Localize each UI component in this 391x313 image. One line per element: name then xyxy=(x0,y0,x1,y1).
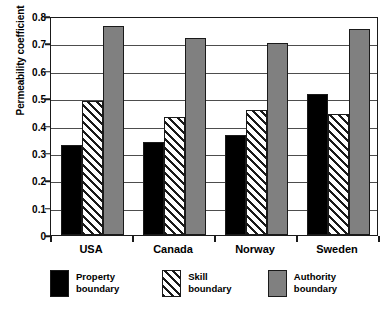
x-tick-mark xyxy=(50,236,52,242)
legend-label: Skillboundary xyxy=(188,270,231,295)
legend-item[interactable]: Propertyboundary xyxy=(50,270,148,297)
bar-group xyxy=(51,18,133,235)
y-tick-label: 0.7 xyxy=(2,39,46,50)
x-axis-label-canada: Canada xyxy=(153,243,193,255)
y-tick-label: 0.8 xyxy=(2,12,46,23)
legend-label: Propertyboundary xyxy=(76,270,119,295)
legend-swatch xyxy=(162,270,181,297)
bar[interactable] xyxy=(82,101,103,235)
bar[interactable] xyxy=(328,114,349,235)
bar-group xyxy=(297,18,379,235)
bar[interactable] xyxy=(307,94,328,235)
bar[interactable] xyxy=(103,26,124,235)
legend-label-line2: boundary xyxy=(188,283,231,295)
legend-swatch xyxy=(268,270,287,297)
bar-group xyxy=(133,18,215,235)
y-tick-label: 0.1 xyxy=(2,203,46,214)
bar[interactable] xyxy=(349,29,370,235)
legend: PropertyboundarySkillboundaryAuthoritybo… xyxy=(50,270,380,297)
bar[interactable] xyxy=(225,135,246,235)
x-axis-label-sweden: Sweden xyxy=(316,243,358,255)
bar[interactable] xyxy=(61,145,82,235)
y-tick-label: 0.3 xyxy=(2,148,46,159)
bar-group xyxy=(215,18,297,235)
legend-swatch xyxy=(50,270,69,297)
x-tick-mark xyxy=(132,236,134,242)
legend-item[interactable]: Authorityboundary xyxy=(268,270,366,297)
y-tick-label: 0 xyxy=(2,231,46,242)
legend-label-line1: Property xyxy=(76,271,119,283)
legend-label-line1: Authority xyxy=(294,271,337,283)
legend-item[interactable]: Skillboundary xyxy=(162,270,254,297)
y-tick-label: 0.4 xyxy=(2,121,46,132)
plot-area xyxy=(50,17,378,236)
legend-label: Authorityboundary xyxy=(294,270,337,295)
bars-layer xyxy=(51,18,377,235)
bar-chart: Permeability coefficient 0.80.70.60.50.4… xyxy=(0,0,391,313)
bar[interactable] xyxy=(164,117,185,235)
y-tick-label: 0.2 xyxy=(2,176,46,187)
y-tick-label: 0.5 xyxy=(2,94,46,105)
x-tick-mark xyxy=(296,236,298,242)
x-axis-label-norway: Norway xyxy=(235,243,275,255)
legend-label-line1: Skill xyxy=(188,271,231,283)
x-axis-label-usa: USA xyxy=(79,243,102,255)
legend-label-line2: boundary xyxy=(76,283,119,295)
bar[interactable] xyxy=(143,142,164,235)
bar[interactable] xyxy=(185,38,206,235)
bar[interactable] xyxy=(267,43,288,235)
legend-label-line2: boundary xyxy=(294,283,337,295)
x-tick-mark xyxy=(214,236,216,242)
y-tick-label: 0.6 xyxy=(2,66,46,77)
x-tick-mark xyxy=(378,236,380,242)
bar[interactable] xyxy=(246,110,267,235)
